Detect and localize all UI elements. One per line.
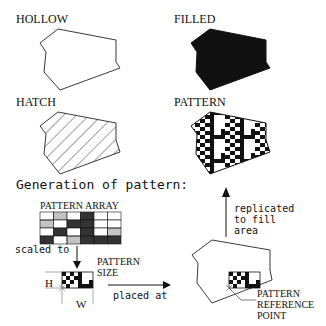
- placed-pattern-cell: [229, 272, 260, 288]
- pattern-polygon: [191, 112, 270, 174]
- filled-polygon: [191, 29, 270, 90]
- hollow-polygon: [40, 29, 120, 90]
- diagram-graphics: [0, 0, 326, 326]
- pattern-array-grid: [40, 212, 121, 244]
- pattern-size-cell: [62, 272, 93, 288]
- pattern-fill-diagram: HOLLOW FILLED HATCH PATTERN Generation o…: [0, 0, 326, 326]
- target-polygon: [192, 240, 272, 303]
- hatch-polygon: [40, 112, 120, 174]
